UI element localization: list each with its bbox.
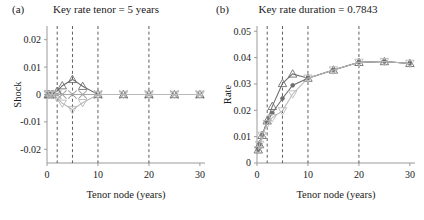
y-tick-label: 0 bbox=[246, 157, 251, 168]
y-axis-title: Rate bbox=[222, 85, 233, 105]
x-axis-title: Tenor node (years) bbox=[86, 189, 166, 201]
x-tick-label: 0 bbox=[255, 169, 260, 180]
series-line-1 bbox=[258, 62, 410, 150]
panel-a: (a) Key rate tenor = 5 years -0.02-0.010… bbox=[0, 0, 212, 220]
series-0-point-6 bbox=[291, 83, 295, 87]
y-tick-label: -0.02 bbox=[20, 144, 41, 155]
y-tick-label: 0.03 bbox=[234, 78, 252, 89]
panel-a-plot: -0.02-0.0100.010.020102030Tenor node (ye… bbox=[0, 0, 212, 220]
series-line-2 bbox=[258, 62, 410, 150]
panel-b: (b) Key rate duration = 0.7843 00.010.02… bbox=[212, 0, 424, 220]
x-tick-label: 30 bbox=[195, 169, 205, 180]
x-tick-label: 10 bbox=[303, 169, 313, 180]
x-tick-label: 30 bbox=[405, 169, 415, 180]
x-tick-label: 10 bbox=[93, 169, 103, 180]
series-0-point-6-glyph bbox=[291, 83, 295, 87]
y-tick-label: 0.05 bbox=[234, 26, 252, 37]
series-0-point-5-glyph bbox=[281, 97, 285, 101]
series-0-point-5 bbox=[281, 97, 285, 101]
series-line-0 bbox=[258, 62, 410, 150]
y-tick-label: 0.04 bbox=[234, 52, 252, 63]
y-tick-label: 0.01 bbox=[234, 131, 252, 142]
y-axis-title: Shock bbox=[12, 81, 23, 108]
y-tick-label: 0.02 bbox=[24, 34, 42, 45]
y-tick-label: -0.01 bbox=[20, 116, 41, 127]
y-tick-label: 0 bbox=[36, 89, 41, 100]
x-axis-title: Tenor node (years) bbox=[296, 189, 376, 201]
y-tick-label: 0.01 bbox=[24, 62, 42, 73]
x-tick-label: 20 bbox=[144, 169, 154, 180]
y-tick-label: 0.02 bbox=[234, 105, 252, 116]
x-tick-label: 0 bbox=[45, 169, 50, 180]
x-tick-label: 20 bbox=[354, 169, 364, 180]
figure-container: (a) Key rate tenor = 5 years -0.02-0.010… bbox=[0, 0, 424, 220]
panel-b-plot: 00.010.020.030.040.050102030Tenor node (… bbox=[212, 0, 424, 220]
